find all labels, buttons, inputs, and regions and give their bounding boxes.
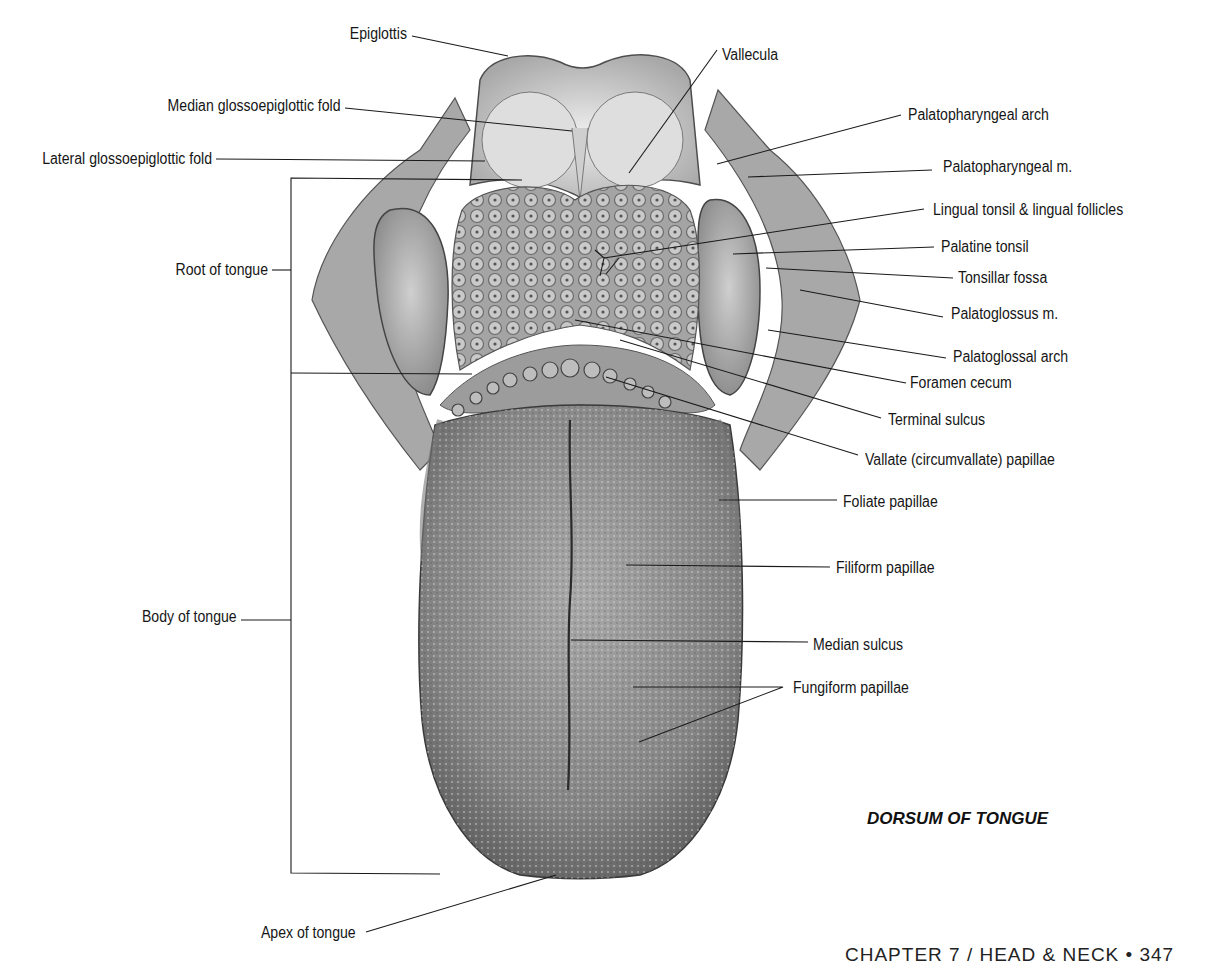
- label-body-of-tongue: Body of tongue: [142, 608, 237, 626]
- label-root-of-tongue: Root of tongue: [176, 261, 268, 279]
- label-palatine-tonsil: Palatine tonsil: [941, 238, 1029, 256]
- figure-caption: DORSUM OF TONGUE: [867, 809, 1048, 829]
- tongue-anatomy-figure: Epiglottis Median glossoepiglottic fold …: [0, 0, 1207, 971]
- label-median-glossoepiglottic-fold: Median glossoepiglottic fold: [168, 97, 341, 115]
- label-palatopharyngeal-arch: Palatopharyngeal arch: [908, 106, 1049, 124]
- label-palatoglossal-arch: Palatoglossal arch: [953, 348, 1068, 366]
- label-lateral-glossoepiglottic-fold: Lateral glossoepiglottic fold: [42, 150, 212, 168]
- label-epiglottis: Epiglottis: [350, 25, 407, 43]
- label-apex-of-tongue: Apex of tongue: [261, 924, 356, 942]
- label-vallecula: Vallecula: [722, 46, 778, 64]
- label-fungiform-papillae: Fungiform papillae: [793, 679, 909, 697]
- label-tonsillar-fossa: Tonsillar fossa: [958, 269, 1047, 287]
- label-foramen-cecum: Foramen cecum: [910, 374, 1012, 392]
- label-terminal-sulcus: Terminal sulcus: [888, 411, 985, 429]
- left-vallecula-shape: [482, 92, 578, 188]
- label-palatoglossus-m: Palatoglossus m.: [951, 305, 1058, 323]
- label-lingual-tonsil: Lingual tonsil & lingual follicles: [933, 201, 1123, 219]
- label-foliate-papillae: Foliate papillae: [843, 493, 938, 511]
- label-palatopharyngeal-m: Palatopharyngeal m.: [943, 158, 1072, 176]
- page-footer: CHAPTER 7 / HEAD & NECK • 347: [845, 944, 1174, 966]
- label-vallate-papillae: Vallate (circumvallate) papillae: [865, 451, 1055, 469]
- label-filiform-papillae: Filiform papillae: [836, 559, 935, 577]
- right-vallecula-shape: [587, 92, 683, 188]
- lingual-tonsil-shape: [452, 185, 699, 370]
- label-median-sulcus: Median sulcus: [813, 636, 903, 654]
